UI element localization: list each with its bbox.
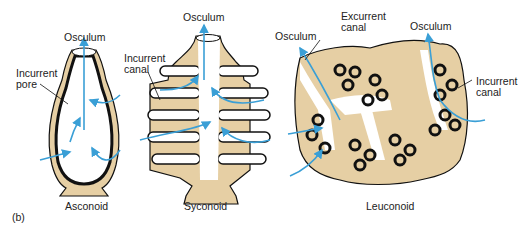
asconoid-incurrent-pore-label: Incurrent pore [16,68,57,90]
syconoid-title: Syconoid [184,201,227,212]
leuconoid-title: Leuconoid [366,201,414,212]
asconoid-osculum-label: Osculum [64,32,105,43]
leuconoid-osculum-left-label: Osculum [275,31,316,42]
leuconoid-excurrent-canal-label: Excurrent canal [341,11,386,33]
leuconoid-figure [288,34,485,185]
figure-label: (b) [12,212,25,223]
asconoid-figure [40,38,120,196]
leuconoid-osculum-right-label: Osculum [410,21,451,32]
asconoid-title: Asconoid [65,201,108,212]
syconoid-osculum-label: Osculum [183,12,224,23]
syconoid-incurrent-canal-label: Incurrent canal [124,53,165,75]
leuconoid-incurrent-canal-label: Incurrent canal [476,76,517,98]
